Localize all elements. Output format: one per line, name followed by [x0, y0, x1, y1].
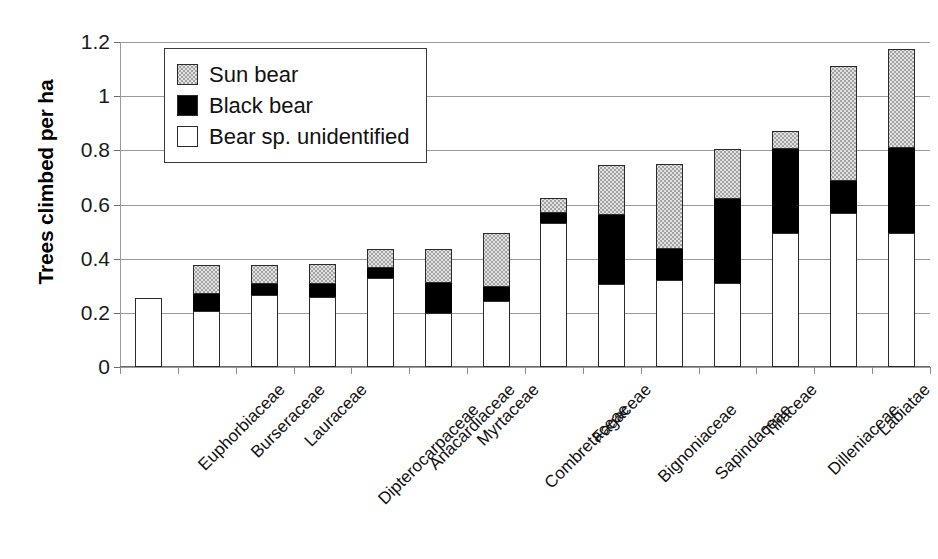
bar-segment-black-bear [309, 284, 336, 296]
bar-segment-sun-bear [656, 164, 683, 249]
bar-segment-sun-bear [309, 264, 336, 284]
legend-item: Bear sp. unidentified [177, 121, 410, 152]
legend: Sun bearBlack bearBear sp. unidentified [164, 48, 427, 163]
bar-segment-bear-sp-unidentified [888, 233, 915, 367]
x-category-label: Dipterocarpaceae [374, 400, 483, 509]
x-tick-mark [641, 367, 642, 374]
x-tick-mark [583, 367, 584, 374]
y-tick-label: 0.8 [54, 139, 110, 160]
bar-labiatae [830, 42, 857, 367]
bar-combretaceae [483, 42, 510, 367]
x-tick-mark [930, 367, 931, 374]
bar-segment-sun-bear [193, 265, 220, 293]
gridline [120, 205, 930, 206]
legend-swatch-white [177, 126, 198, 147]
x-tick-mark [236, 367, 237, 374]
bar-segment-sun-bear [772, 131, 799, 149]
x-tick-mark [872, 367, 873, 374]
bar-segment-black-bear [367, 268, 394, 277]
y-tick-label: 1 [54, 85, 110, 106]
y-tick-mark [114, 313, 120, 314]
y-tick-label: 0.2 [54, 302, 110, 323]
bar-segment-bear-sp-unidentified [598, 284, 625, 367]
bar-segment-black-bear [714, 199, 741, 283]
bar-segment-bear-sp-unidentified [135, 298, 162, 367]
x-tick-mark [351, 367, 352, 374]
bar-segment-black-bear [888, 148, 915, 233]
bar-segment-bear-sp-unidentified [251, 295, 278, 367]
legend-swatch-gray [177, 64, 198, 85]
bar-segment-black-bear [193, 294, 220, 312]
bar-segment-sun-bear [888, 49, 915, 148]
bar-segment-bear-sp-unidentified [772, 233, 799, 367]
x-tick-mark [699, 367, 700, 374]
bar-segment-bear-sp-unidentified [714, 283, 741, 367]
legend-item: Sun bear [177, 59, 410, 90]
y-tick-mark [114, 205, 120, 206]
bar-bignoniaceae [598, 42, 625, 367]
x-tick-mark [467, 367, 468, 374]
bar-segment-bear-sp-unidentified [193, 311, 220, 367]
bar-segment-black-bear [251, 284, 278, 295]
legend-item: Black bear [177, 90, 410, 121]
bar-leguminosae [888, 42, 915, 367]
y-axis-tick-labels: 00.20.40.60.811.2 [48, 0, 110, 559]
gridline [120, 313, 930, 314]
bar-tiliaceae [714, 42, 741, 367]
stacked-bar-chart: Trees climbed per ha 00.20.40.60.811.2 S… [0, 0, 938, 559]
x-tick-mark [525, 367, 526, 374]
bar-segment-black-bear [656, 249, 683, 280]
y-tick-label: 0.6 [54, 194, 110, 215]
bar-segment-black-bear [483, 287, 510, 301]
y-tick-mark [114, 150, 120, 151]
bar-segment-sun-bear [830, 66, 857, 181]
bar-segment-sun-bear [483, 233, 510, 287]
y-tick-label: 1.2 [54, 31, 110, 52]
bar-segment-sun-bear [425, 249, 452, 283]
bar-segment-bear-sp-unidentified [425, 313, 452, 367]
bar-dilleniaceae [772, 42, 799, 367]
bar-segment-bear-sp-unidentified [309, 297, 336, 367]
bar-segment-black-bear [830, 181, 857, 212]
y-tick-mark [114, 42, 120, 43]
bar-segment-black-bear [540, 213, 567, 224]
bar-myrtaceae [425, 42, 452, 367]
gridline [120, 259, 930, 260]
gridline [120, 42, 930, 43]
bar-segment-bear-sp-unidentified [483, 301, 510, 367]
x-tick-mark [294, 367, 295, 374]
bar-segment-black-bear [772, 149, 799, 233]
bar-segment-bear-sp-unidentified [830, 213, 857, 367]
y-tick-mark [114, 96, 120, 97]
x-tick-mark [178, 367, 179, 374]
bar-segment-sun-bear [598, 165, 625, 215]
y-tick-label: 0 [54, 356, 110, 377]
bar-segment-black-bear [598, 215, 625, 284]
legend-label: Black bear [209, 95, 313, 117]
legend-label: Bear sp. unidentified [209, 126, 410, 148]
legend-swatch-black [177, 95, 198, 116]
bar-segment-bear-sp-unidentified [656, 280, 683, 367]
bar-segment-bear-sp-unidentified [367, 278, 394, 367]
bar-sapindaceae [656, 42, 683, 367]
x-category-label: Fagaceae [588, 380, 656, 448]
x-tick-mark [409, 367, 410, 374]
x-tick-mark [814, 367, 815, 374]
bar-segment-sun-bear [367, 249, 394, 268]
y-tick-label: 0.4 [54, 248, 110, 269]
legend-label: Sun bear [209, 64, 298, 86]
bar-fagaceae [540, 42, 567, 367]
bar-segment-bear-sp-unidentified [540, 223, 567, 367]
x-axis-category-labels: EuphorbiaceaeBurseraceaeLauraceaeDiptero… [120, 374, 930, 559]
x-tick-mark [756, 367, 757, 374]
bar-segment-sun-bear [714, 149, 741, 199]
x-tick-mark [120, 367, 121, 374]
bar-euphorbiaceae [135, 42, 162, 367]
y-tick-mark [114, 259, 120, 260]
bar-segment-sun-bear [540, 198, 567, 213]
bar-segment-sun-bear [251, 265, 278, 284]
bar-segment-black-bear [425, 283, 452, 313]
